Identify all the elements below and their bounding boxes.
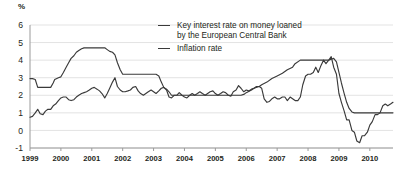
legend-item-label: Inflation rate bbox=[177, 44, 222, 54]
x-axis-tick-label: 2005 bbox=[207, 154, 225, 163]
legend-item-label: Key interest rate on money loaned by the… bbox=[177, 21, 302, 42]
legend-line-icon bbox=[158, 48, 170, 57]
y-axis-tick-label: 5 bbox=[18, 38, 23, 48]
x-axis-tick-label: 2000 bbox=[52, 154, 69, 163]
x-axis-tick-label: 2010 bbox=[361, 154, 378, 163]
x-axis-tick-label: 2007 bbox=[269, 154, 286, 163]
x-axis-tick-label: 1999 bbox=[22, 154, 39, 163]
x-axis-tick-label: 2004 bbox=[176, 154, 194, 163]
y-axis-tick-label: 3 bbox=[18, 73, 23, 83]
x-axis-tick-label: 2009 bbox=[330, 154, 347, 163]
legend-item-key-interest-rate: Key interest rate on money loaned by the… bbox=[158, 21, 390, 42]
x-axis-tick-label: 2002 bbox=[114, 154, 131, 163]
y-axis-tick-label: 6 bbox=[18, 20, 23, 30]
y-axis-tick-labels: -10123456 bbox=[15, 20, 23, 153]
chart-legend: Key interest rate on money loaned by the… bbox=[158, 21, 390, 56]
y-axis-tick-label: 1 bbox=[18, 108, 23, 118]
x-axis-tick-label: 2006 bbox=[238, 154, 255, 163]
series-line bbox=[30, 48, 393, 113]
y-axis-tick-label: 4 bbox=[18, 55, 23, 65]
legend-item-inflation-rate: Inflation rate bbox=[158, 44, 390, 54]
x-axis-tick-label: 2003 bbox=[145, 154, 162, 163]
x-axis-tick-label: 2001 bbox=[83, 154, 101, 163]
y-axis-tick-label: 0 bbox=[18, 126, 23, 136]
x-axis-tick-label: 2008 bbox=[300, 154, 317, 163]
x-axis-tick-labels: 1999200020012002200320042005200620072008… bbox=[22, 154, 379, 163]
y-axis-tick-label: 2 bbox=[18, 90, 23, 100]
legend-line-icon bbox=[158, 25, 170, 34]
chart-container: % -10123456 1999200020012002200320042005… bbox=[0, 0, 397, 173]
y-axis-tick-label: -1 bbox=[15, 143, 23, 153]
